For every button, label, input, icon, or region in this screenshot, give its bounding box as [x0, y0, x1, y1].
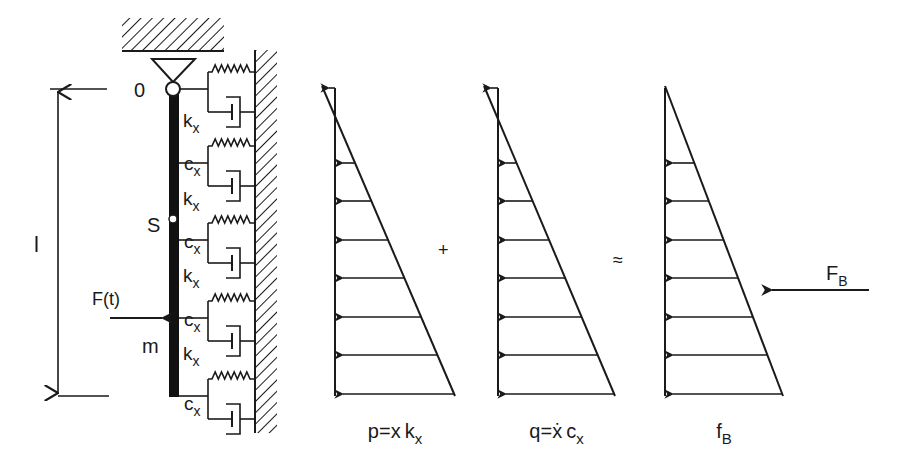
- spring-icon: [208, 65, 255, 72]
- stiffness-label: kx: [183, 265, 200, 291]
- length-dimension: l: [34, 89, 109, 396]
- resultant-label: FB: [826, 262, 848, 289]
- pin-support-icon: [152, 59, 195, 82]
- side-wall: [255, 50, 277, 433]
- plus-operator: +: [438, 240, 449, 260]
- stiffness-label: kx: [183, 188, 200, 214]
- damping-label: cx: [184, 309, 201, 335]
- bedding-load-caption: fB: [716, 420, 732, 447]
- coefficient-labels: kxkxkxkxcxcxcxcx: [183, 110, 201, 419]
- approx-operator: ≈: [613, 250, 623, 270]
- beam-bar: [169, 89, 179, 397]
- damping-label: cx: [184, 231, 201, 257]
- damping-label: cx: [184, 153, 201, 179]
- bedding-load-diagram: fB: [665, 86, 783, 447]
- resultant-force: FB: [772, 262, 869, 290]
- beam-on-elastic-foundation-diagram: l 0 S F(t) m kxkxkxkxcxcxcxcx p=xkxq=ẋc…: [0, 0, 899, 472]
- spring-icon: [208, 139, 255, 146]
- stiffness-load-caption: p=xkx: [368, 420, 423, 447]
- load-distributions: p=xkxq=ẋcxfB: [322, 86, 783, 447]
- length-label: l: [34, 232, 39, 257]
- damping-load-caption: q=ẋcx: [529, 420, 584, 447]
- wall-hatch: [255, 50, 277, 433]
- mass-label: m: [142, 335, 159, 357]
- damping-label: cx: [184, 393, 201, 419]
- damping-load-diagram: q=ẋcx: [484, 86, 615, 447]
- diagram-canvas: l 0 S F(t) m kxkxkxkxcxcxcxcx p=xkxq=ẋc…: [0, 0, 899, 472]
- pivot-label: 0: [134, 79, 145, 101]
- center-of-mass-point: [169, 215, 177, 223]
- stiffness-load-diagram: p=xkx: [322, 86, 455, 447]
- spring-icon: [208, 372, 255, 379]
- force-label: F(t): [92, 289, 120, 309]
- stiffness-label: kx: [183, 343, 200, 369]
- spring-icon: [208, 294, 255, 301]
- center-label: S: [147, 214, 160, 236]
- ceiling-hatch: [122, 18, 224, 50]
- stiffness-label: kx: [183, 110, 200, 136]
- pivot-joint: [166, 82, 180, 96]
- spring-icon: [208, 216, 255, 223]
